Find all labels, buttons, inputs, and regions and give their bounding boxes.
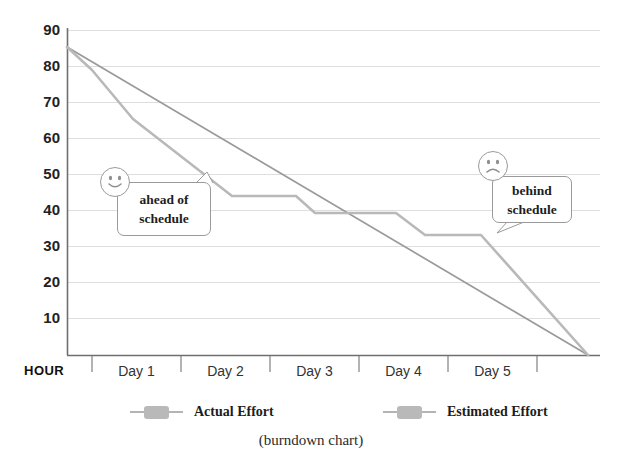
y-tick-label-10: 10 — [20, 310, 60, 326]
behind-callout-line-1: behind — [512, 183, 552, 198]
gridlines — [67, 31, 600, 319]
ahead-callout-line-1: ahead of — [139, 192, 188, 207]
smiley-face-icon — [100, 167, 130, 197]
behind-schedule-callout: behind schedule — [492, 176, 572, 223]
behind-callout-line-2: schedule — [507, 202, 557, 217]
legend-label-estimated-effort: Estimated Effort — [447, 404, 548, 420]
y-tick-label-30: 30 — [20, 238, 60, 254]
y-tick-label-50: 50 — [20, 166, 60, 182]
burndown-chart: 90 80 70 60 50 40 30 20 10 HOUR Day 1 Da… — [0, 0, 622, 466]
sad-face-icon — [478, 151, 508, 181]
x-tick-label-day-3: Day 3 — [270, 363, 359, 379]
legend-item-actual-effort: Actual Effort — [130, 404, 274, 420]
chart-plot-area — [0, 0, 622, 466]
x-tick-label-day-2: Day 2 — [181, 363, 270, 379]
ahead-callout-line-2: schedule — [139, 211, 189, 226]
x-tick-label-day-1: Day 1 — [92, 363, 181, 379]
legend-line-right-estimated — [422, 411, 436, 413]
legend-line-left-actual — [130, 411, 144, 413]
x-axis-title-hour: HOUR — [8, 363, 64, 378]
y-tick-label-70: 70 — [20, 94, 60, 110]
chart-caption: (burndown chart) — [0, 432, 622, 449]
legend-swatch-estimated — [397, 406, 422, 419]
y-tick-label-80: 80 — [20, 58, 60, 74]
legend-label-actual-effort: Actual Effort — [194, 404, 274, 420]
smiley-face-glyph — [101, 168, 129, 196]
ahead-of-schedule-callout: ahead of schedule — [117, 182, 211, 236]
ahead-callout-text: ahead of schedule — [139, 190, 189, 228]
y-tick-label-60: 60 — [20, 130, 60, 146]
y-tick-label-90: 90 — [20, 22, 60, 38]
legend-item-estimated-effort: Estimated Effort — [383, 404, 548, 420]
legend-line-right-actual — [169, 411, 183, 413]
x-tick-label-day-5: Day 5 — [448, 363, 537, 379]
sad-face-glyph — [479, 152, 507, 180]
legend-line-left-estimated — [383, 411, 397, 413]
y-tick-label-40: 40 — [20, 202, 60, 218]
y-tick-label-20: 20 — [20, 274, 60, 290]
behind-callout-text: behind schedule — [507, 181, 557, 219]
x-tick-label-day-4: Day 4 — [359, 363, 448, 379]
legend-swatch-actual — [144, 406, 169, 419]
